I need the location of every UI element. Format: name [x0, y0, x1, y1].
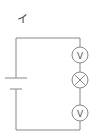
voltmeter-top-icon: V [72, 47, 88, 63]
wire-top [16, 38, 80, 47]
voltmeter-top-symbol: V [77, 51, 84, 61]
battery-icon [5, 78, 27, 89]
wire-left-lower [16, 89, 80, 130]
voltmeter-bottom-icon: V [72, 105, 88, 121]
voltmeter-bottom-symbol: V [77, 109, 84, 119]
circuit-diagram: V V [0, 0, 101, 138]
lamp-icon [72, 72, 88, 88]
